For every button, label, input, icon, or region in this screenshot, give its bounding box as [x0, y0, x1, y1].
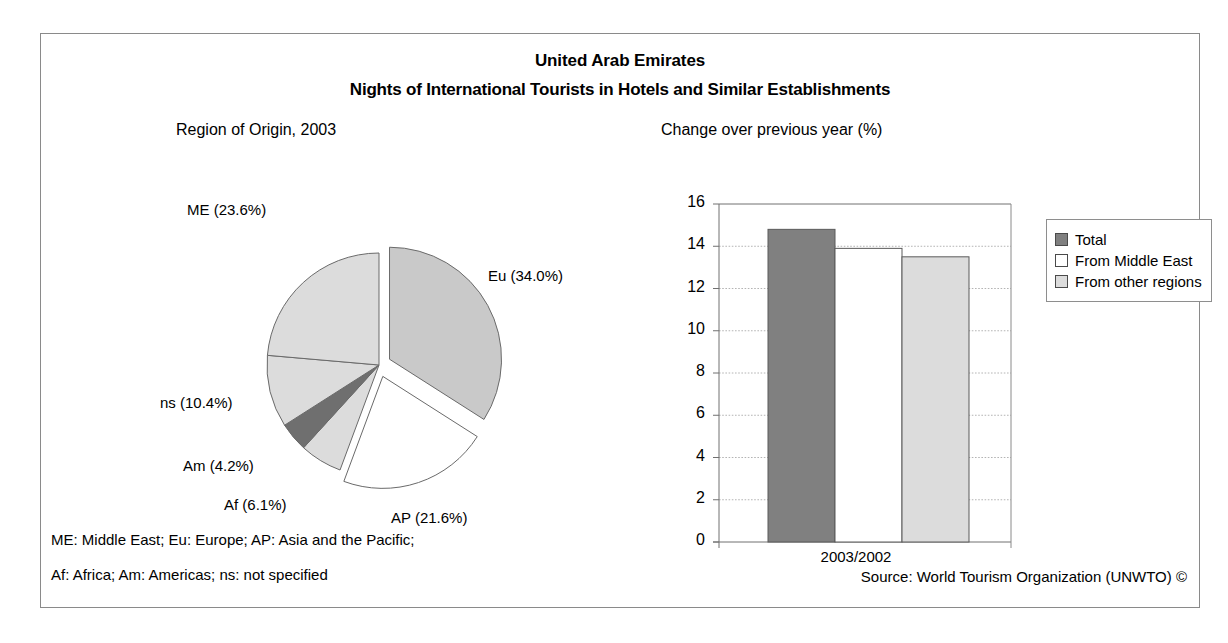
chart-frame: United Arab Emirates Nights of Internati…: [40, 33, 1200, 608]
pie-chart-title: Region of Origin, 2003: [176, 121, 336, 139]
bar-from-middle-east[interactable]: [835, 248, 902, 542]
bar-chart: 2003/2002 Total From Middle East From ot…: [641, 144, 1201, 554]
source-credit: Source: World Tourism Organization (UNWT…: [861, 568, 1187, 585]
ytick-label-4: 4: [673, 447, 705, 465]
legend-item-from-other-regions[interactable]: From other regions: [1055, 273, 1202, 290]
footnote-abbreviations-line-2: Af: Africa; Am: Americas; ns: not specif…: [51, 566, 328, 583]
pie-label-eu: Eu (34.0%): [488, 267, 563, 284]
ytick-label-16: 16: [673, 193, 705, 211]
legend-item-total[interactable]: Total: [1055, 231, 1202, 248]
bar-from-other-regions[interactable]: [902, 257, 969, 542]
legend-label-from-other-regions: From other regions: [1075, 273, 1202, 290]
legend-label-from-middle-east: From Middle East: [1075, 252, 1193, 269]
ytick-label-2: 2: [673, 489, 705, 507]
ytick-label-12: 12: [673, 278, 705, 296]
bar-category-label: 2003/2002: [706, 548, 1006, 565]
ytick-label-6: 6: [673, 404, 705, 422]
bar-chart-svg: [641, 144, 1201, 554]
ytick-label-8: 8: [673, 362, 705, 380]
ytick-label-0: 0: [673, 531, 705, 549]
pie-label-am: Am (4.2%): [183, 457, 254, 474]
bar-total[interactable]: [768, 229, 835, 542]
bar-chart-title: Change over previous year (%): [661, 121, 882, 139]
pie-label-me: ME (23.6%): [187, 201, 266, 218]
pie-slice-me[interactable]: [267, 253, 379, 365]
footnote-abbreviations-line-1: ME: Middle East; Eu: Europe; AP: Asia an…: [51, 531, 415, 548]
legend-swatch-from-other-regions: [1055, 275, 1068, 288]
legend-label-total: Total: [1075, 231, 1107, 248]
ytick-label-10: 10: [673, 320, 705, 338]
pie-chart-svg: [61, 144, 621, 524]
page-subtitle: Nights of International Tourists in Hote…: [41, 80, 1199, 100]
pie-label-ap: AP (21.6%): [391, 509, 467, 526]
legend-swatch-total: [1055, 233, 1068, 246]
legend-item-from-middle-east[interactable]: From Middle East: [1055, 252, 1202, 269]
pie-label-af: Af (6.1%): [224, 496, 287, 513]
page-title: United Arab Emirates: [41, 51, 1199, 71]
ytick-label-14: 14: [673, 235, 705, 253]
legend-swatch-from-middle-east: [1055, 254, 1068, 267]
bar-chart-legend: Total From Middle East From other region…: [1046, 219, 1212, 302]
pie-chart: ME (23.6%) Eu (34.0%) ns (10.4%) Am (4.2…: [61, 144, 621, 524]
pie-label-ns: ns (10.4%): [160, 394, 233, 411]
